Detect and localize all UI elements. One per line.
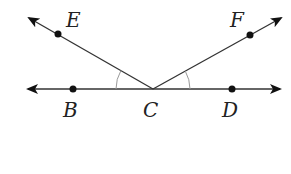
label-b: B bbox=[62, 98, 78, 122]
ray-ce bbox=[29, 18, 153, 89]
label-f: F bbox=[229, 8, 245, 32]
label-e: E bbox=[65, 8, 81, 32]
point-b-dot bbox=[70, 86, 77, 93]
point-f-dot bbox=[247, 32, 254, 39]
label-c: C bbox=[143, 98, 158, 122]
label-d: D bbox=[221, 98, 238, 122]
angle-diagram: E F B C D bbox=[0, 0, 291, 174]
ray-cf bbox=[153, 18, 281, 89]
point-e-dot bbox=[55, 31, 62, 38]
angle-arc-ecb bbox=[116, 70, 121, 89]
point-d-dot bbox=[229, 86, 236, 93]
angle-arc-fcd bbox=[185, 71, 190, 89]
